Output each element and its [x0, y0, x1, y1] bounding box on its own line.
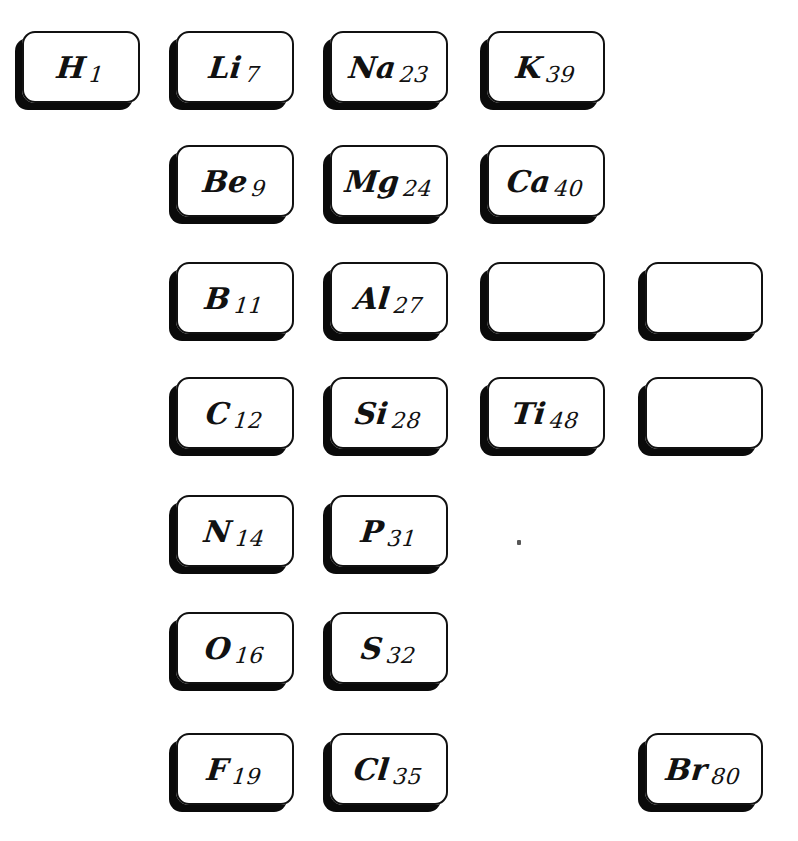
element-symbol: Li: [207, 50, 243, 85]
card-label: K39: [514, 50, 578, 85]
card-face: N14: [176, 495, 294, 567]
atomic-weight: 35: [393, 764, 425, 789]
element-symbol: N: [202, 514, 233, 549]
element-symbol: Ca: [505, 164, 552, 199]
card-face: [645, 262, 763, 334]
card-label: Ti48: [510, 396, 581, 431]
card-label: Li7: [207, 50, 263, 85]
element-card[interactable]: P31: [330, 495, 448, 567]
atomic-weight: 16: [234, 643, 266, 668]
blank-element-card[interactable]: [645, 377, 763, 449]
card-label: Cl35: [353, 752, 426, 787]
atomic-weight: 9: [250, 176, 267, 201]
card-face: Br80: [645, 733, 763, 805]
card-face: [645, 377, 763, 449]
element-symbol: B: [203, 281, 232, 316]
card-face: Mg24: [330, 145, 448, 217]
atomic-weight: 28: [391, 408, 423, 433]
element-card[interactable]: H1: [22, 31, 140, 103]
element-symbol: Ti: [510, 396, 547, 431]
atomic-weight: 80: [711, 764, 743, 789]
card-label: Si28: [354, 396, 425, 431]
card-face: Ca40: [487, 145, 605, 217]
card-label: Al27: [353, 281, 425, 316]
card-face: Al27: [330, 262, 448, 334]
atomic-weight: 11: [234, 293, 266, 318]
element-symbol: Mg: [343, 164, 401, 199]
element-card[interactable]: Ca40: [487, 145, 605, 217]
element-card[interactable]: F19: [176, 733, 294, 805]
card-label: Be9: [201, 164, 269, 199]
atomic-weight: 7: [244, 62, 261, 87]
element-card-plate: H1Li7Na23K39Be9Mg24Ca40B11Al27C12Si28Ti4…: [0, 0, 798, 841]
card-label: Br80: [665, 752, 744, 787]
atomic-weight: 40: [554, 176, 586, 201]
card-face: F19: [176, 733, 294, 805]
element-card[interactable]: Al27: [330, 262, 448, 334]
element-symbol: Cl: [353, 752, 392, 787]
card-label: Na23: [347, 50, 432, 85]
element-symbol: F: [206, 752, 231, 787]
card-face: H1: [22, 31, 140, 103]
element-symbol: K: [514, 50, 544, 85]
card-face: Be9: [176, 145, 294, 217]
element-symbol: P: [359, 514, 385, 549]
atomic-weight: 48: [549, 408, 581, 433]
element-symbol: O: [203, 631, 233, 666]
card-face: [487, 262, 605, 334]
element-card[interactable]: N14: [176, 495, 294, 567]
atomic-weight: 1: [88, 62, 105, 87]
element-symbol: Si: [354, 396, 391, 431]
element-card[interactable]: Mg24: [330, 145, 448, 217]
element-symbol: Na: [347, 50, 398, 85]
element-card[interactable]: Si28: [330, 377, 448, 449]
card-face: Na23: [330, 31, 448, 103]
blank-element-card[interactable]: [487, 262, 605, 334]
atomic-weight: 12: [233, 408, 265, 433]
element-symbol: S: [359, 631, 384, 666]
element-card[interactable]: K39: [487, 31, 605, 103]
card-face: Ti48: [487, 377, 605, 449]
element-card[interactable]: C12: [176, 377, 294, 449]
atomic-weight: 39: [545, 62, 577, 87]
card-face: B11: [176, 262, 294, 334]
element-card[interactable]: S32: [330, 612, 448, 684]
atomic-weight: 32: [386, 643, 418, 668]
card-label: Mg24: [343, 164, 435, 199]
card-face: O16: [176, 612, 294, 684]
card-face: K39: [487, 31, 605, 103]
card-label: B11: [203, 281, 266, 316]
element-card[interactable]: Li7: [176, 31, 294, 103]
element-symbol: C: [204, 396, 232, 431]
atomic-weight: 27: [392, 293, 424, 318]
card-face: Si28: [330, 377, 448, 449]
card-label: P31: [359, 514, 419, 549]
card-face: Cl35: [330, 733, 448, 805]
element-symbol: H: [55, 50, 87, 85]
atomic-weight: 14: [235, 526, 267, 551]
card-face: C12: [176, 377, 294, 449]
element-card[interactable]: Br80: [645, 733, 763, 805]
atomic-weight: 31: [386, 526, 418, 551]
element-card[interactable]: B11: [176, 262, 294, 334]
card-label: C12: [204, 396, 266, 431]
element-card[interactable]: Be9: [176, 145, 294, 217]
card-face: P31: [330, 495, 448, 567]
element-symbol: Br: [665, 752, 710, 787]
ink-speck: [517, 540, 521, 545]
element-card[interactable]: O16: [176, 612, 294, 684]
element-symbol: Al: [353, 281, 391, 316]
card-label: H1: [55, 50, 107, 85]
card-face: S32: [330, 612, 448, 684]
card-label: Ca40: [505, 164, 586, 199]
card-label: O16: [203, 631, 267, 666]
atomic-weight: 24: [402, 176, 434, 201]
blank-element-card[interactable]: [645, 262, 763, 334]
card-label: S32: [359, 631, 418, 666]
element-card[interactable]: Na23: [330, 31, 448, 103]
element-symbol: Be: [201, 164, 249, 199]
element-card[interactable]: Ti48: [487, 377, 605, 449]
card-label: F19: [206, 752, 265, 787]
element-card[interactable]: Cl35: [330, 733, 448, 805]
atomic-weight: 23: [398, 62, 430, 87]
